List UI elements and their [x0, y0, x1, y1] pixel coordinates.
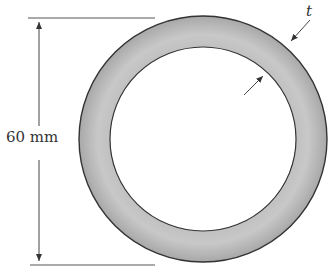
diameter-label: 60 mm	[6, 126, 58, 148]
inner-circle	[110, 47, 296, 231]
thickness-label: t	[306, 2, 312, 20]
thickness-arrow-inner	[244, 76, 263, 95]
tube-ring	[79, 16, 327, 262]
thickness-arrow-outer	[291, 20, 310, 41]
